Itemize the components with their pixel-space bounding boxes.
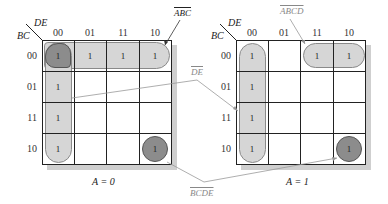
- connector-lines: [0, 0, 388, 204]
